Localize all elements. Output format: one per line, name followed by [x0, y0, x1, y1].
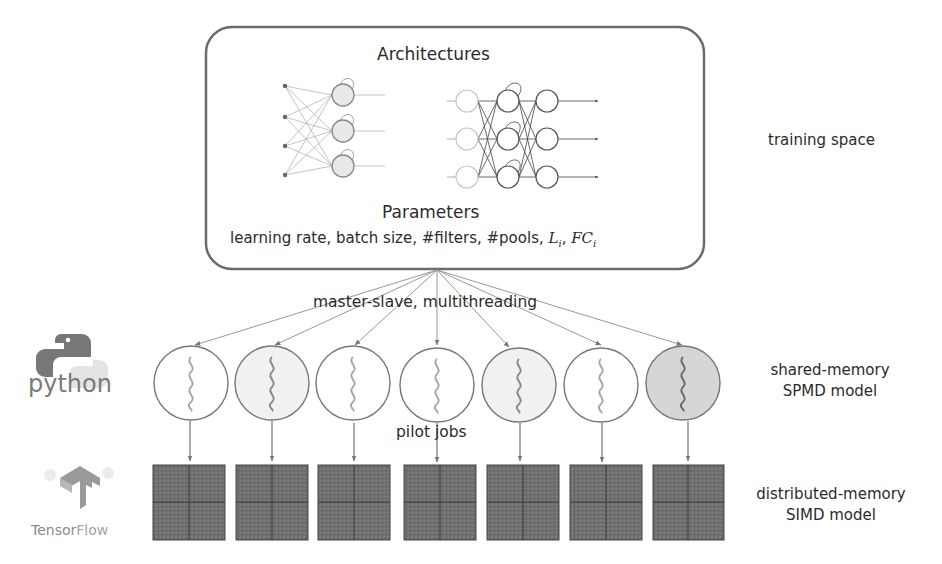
compute-node-grid	[153, 465, 225, 540]
param-FC-symbol: FC	[571, 229, 593, 247]
training-space-label: training space	[768, 130, 875, 151]
compute-node-grid	[653, 465, 724, 540]
parameters-title: Parameters	[382, 202, 479, 222]
architectures-title: Architectures	[377, 44, 490, 64]
distributed-memory-line1: distributed-memory	[741, 484, 921, 505]
param-FC-subscript: i	[593, 238, 596, 249]
parameters-list: learning rate, batch size, #filters, #po…	[230, 229, 596, 249]
distributed-memory-line2: SIMD model	[741, 505, 921, 526]
compute-node-grid	[570, 465, 642, 540]
worker-thread	[235, 346, 309, 420]
param-separator: ,	[562, 229, 572, 247]
tensorflow-logo-icon	[44, 466, 114, 509]
worker-thread	[154, 346, 228, 420]
param-L: Li	[548, 229, 561, 247]
pilot-jobs-label: pilot jobs	[396, 423, 467, 441]
compute-node-grid	[487, 465, 559, 540]
worker-thread	[400, 348, 474, 422]
training-space-text: training space	[768, 131, 875, 149]
compute-node-grid	[404, 465, 476, 540]
worker-threads	[154, 346, 720, 422]
tensorflow-wordmark-part1: Tensor	[31, 522, 76, 538]
param-L-symbol: L	[548, 229, 558, 247]
tensorflow-wordmark-part2: Flow	[76, 522, 108, 538]
python-wordmark: python	[28, 370, 112, 398]
compute-node-grid	[236, 465, 308, 540]
parameters-list-text: learning rate, batch size, #filters, #po…	[230, 229, 548, 247]
distributed-memory-label: distributed-memory SIMD model	[741, 484, 921, 526]
tensorflow-wordmark: TensorFlow	[31, 522, 108, 538]
compute-node-grid	[318, 465, 390, 540]
compute-nodes	[153, 465, 724, 540]
deep-recurrent-network-nodes	[456, 90, 558, 188]
worker-thread	[482, 348, 556, 422]
shared-memory-label: shared-memory SPMD model	[760, 360, 900, 402]
worker-thread	[646, 346, 720, 420]
fanout-label: master-slave, multithreading	[313, 293, 537, 311]
param-FC: FCi	[571, 229, 596, 247]
diagram-canvas	[0, 0, 942, 564]
worker-thread	[564, 348, 638, 422]
shared-memory-line1: shared-memory	[760, 360, 900, 381]
shared-memory-line2: SPMD model	[760, 381, 900, 402]
worker-thread	[316, 346, 390, 420]
